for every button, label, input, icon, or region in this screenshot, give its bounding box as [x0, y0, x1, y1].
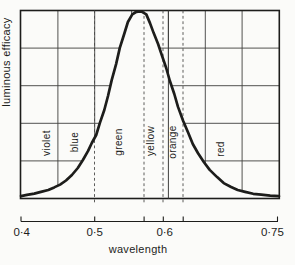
x-tick-label: 0·75 [261, 226, 284, 238]
x-tick-label: 0·6 [156, 226, 173, 238]
bell-underfill [21, 11, 279, 198]
x-tick-label: 0·5 [86, 226, 103, 238]
band-label-blue: blue [69, 132, 80, 153]
luminosity-figure: luminous efficacy wavelength violetblueg… [0, 0, 295, 265]
band-label-orange: orange [167, 125, 178, 159]
band-label-green: green [113, 128, 124, 156]
band-label-yellow: yellow [145, 126, 156, 157]
figure-canvas: luminous efficacy wavelength violetblueg… [0, 0, 295, 265]
x-tick-label: 0·4 [13, 226, 30, 238]
band-label-red: red [215, 141, 226, 157]
x-axis-label: wavelength [108, 243, 168, 255]
band-label-violet: violet [41, 130, 52, 156]
y-axis-label: luminous efficacy [0, 17, 12, 106]
